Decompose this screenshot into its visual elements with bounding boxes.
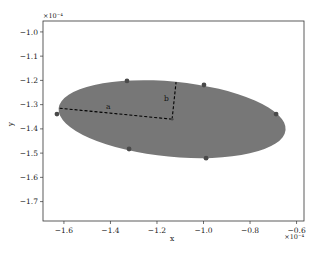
y-scale-exponent: ×10⁻⁴: [43, 12, 63, 20]
data-point: [202, 83, 207, 88]
data-point: [274, 112, 279, 117]
y-axis-label: y: [6, 121, 15, 127]
data-point: [55, 112, 60, 117]
x-tick-label: −1.2: [148, 226, 166, 235]
x-tick-label: −1.4: [101, 226, 119, 235]
y-tick-label: −1.5: [20, 149, 38, 158]
y-tick-label: −1.4: [20, 124, 38, 133]
x-axis-label: x: [170, 234, 175, 243]
y-tick-label: −1.0: [20, 28, 38, 37]
data-point: [171, 118, 174, 121]
data-point: [127, 147, 132, 152]
annotation-label-b: b: [164, 94, 169, 103]
y-tick-label: −1.3: [20, 100, 38, 109]
ellipse-scatter-chart: ab −1.6−1.4−1.2−1.0−0.8−0.6 −1.0−1.1−1.2…: [0, 0, 320, 256]
data-point: [125, 78, 130, 83]
y-axis-ticks: −1.0−1.1−1.2−1.3−1.4−1.5−1.6−1.7: [20, 28, 43, 207]
y-tick-label: −1.2: [20, 76, 38, 85]
y-tick-label: −1.1: [20, 52, 38, 61]
y-tick-label: −1.6: [20, 173, 38, 182]
x-tick-label: −1.6: [55, 226, 73, 235]
x-tick-label: −1.0: [194, 226, 212, 235]
annotation-label-a: a: [106, 102, 111, 111]
y-tick-label: −1.7: [20, 197, 38, 206]
x-tick-label: −0.8: [241, 226, 259, 235]
data-point: [204, 156, 209, 161]
x-scale-exponent: ×10⁻⁴: [284, 233, 304, 241]
x-axis-ticks: −1.6−1.4−1.2−1.0−0.8−0.6: [55, 221, 306, 235]
